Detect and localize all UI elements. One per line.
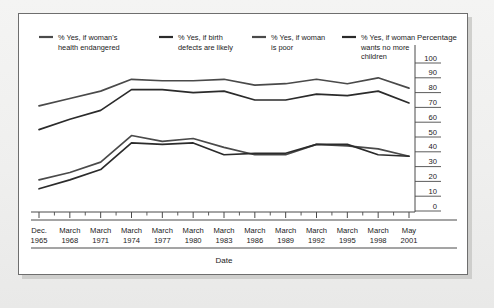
series-line-2[interactable] [39,136,409,180]
legend-label-line1: % Yes, if woman [271,33,325,42]
y-tick-label: 100 [424,54,437,63]
x-tick-label-line1: May [402,226,417,235]
y-tick-label: 70 [429,98,437,107]
x-tick-label-line1: March [306,226,327,235]
y-tick-label: 20 [429,172,437,181]
x-tick-label-line2: 1980 [185,236,202,245]
x-tick-label-line1: Dec. [31,226,47,235]
x-tick-label-line2: 1989 [277,236,294,245]
x-tick-label-line2: 1965 [31,236,48,245]
x-tick-label-line1: March [368,226,389,235]
legend-label-line1: % Yes, if woman's [58,33,118,42]
legend-item-1[interactable]: % Yes, if birthdefects are likely [159,33,233,52]
chart-figure: % Yes, if woman'shealth endangered% Yes,… [19,14,469,276]
y-tick-label: 30 [429,157,437,166]
x-tick-label-line1: March [337,226,358,235]
x-tick-label-line2: 1983 [216,236,233,245]
chart-panel: % Yes, if woman'shealth endangered% Yes,… [18,13,468,275]
x-tick-label-line1: March [90,226,111,235]
legend-item-0[interactable]: % Yes, if woman'shealth endangered [39,33,120,52]
y-axis: Percentage0102030405060708090100 [415,33,457,212]
x-axis: Dec.1965March1968March1971March1974March… [31,212,457,265]
screenshot-root: % Yes, if woman'shealth endangered% Yes,… [0,0,494,308]
y-tick-label: 40 [429,142,437,151]
chart-legend: % Yes, if woman'shealth endangered% Yes,… [39,33,415,61]
y-axis-title: Percentage [417,33,457,42]
x-tick-label-line1: March [275,226,296,235]
y-tick-label: 10 [429,187,437,196]
x-tick-label-line1: March [59,226,80,235]
line-chart: % Yes, if woman'shealth endangered% Yes,… [19,14,469,276]
x-tick-label-line2: 1968 [61,236,78,245]
series-line-3[interactable] [39,143,409,189]
x-tick-label-line2: 1998 [370,236,387,245]
x-tick-label-line2: 1992 [308,236,325,245]
x-tick-label-line2: 1986 [246,236,263,245]
x-tick-label-line2: 2001 [401,236,418,245]
y-tick-label: 50 [429,128,437,137]
chart-plot-area [39,78,409,189]
legend-item-3[interactable]: % Yes, if womanwants no morechildren [342,33,415,61]
y-tick-label: 60 [429,113,437,122]
legend-label-line2: defects are likely [178,43,233,52]
legend-label-line1: % Yes, if woman [361,33,415,42]
x-tick-label-line1: March [244,226,265,235]
legend-label-line2: health endangered [58,43,120,52]
y-tick-label: 80 [429,83,437,92]
x-tick-label-line1: March [121,226,142,235]
x-tick-label-line1: March [213,226,234,235]
y-tick-label: 0 [433,202,437,211]
x-tick-label-line2: 1971 [92,236,109,245]
x-tick-label-line1: March [152,226,173,235]
legend-label-line2: wants no more [360,43,409,52]
x-tick-label-line2: 1977 [154,236,171,245]
legend-label-line2: is poor [271,43,294,52]
x-tick-label-line1: March [183,226,204,235]
y-tick-label: 90 [429,68,437,77]
x-tick-label-line2: 1995 [339,236,356,245]
x-tick-label-line2: 1974 [123,236,140,245]
legend-label-line1: % Yes, if birth [178,33,223,42]
legend-label-line3: children [361,52,387,61]
x-axis-title: Date [216,256,233,265]
series-line-1[interactable] [39,90,409,130]
legend-item-2[interactable]: % Yes, if womanis poor [252,33,325,52]
